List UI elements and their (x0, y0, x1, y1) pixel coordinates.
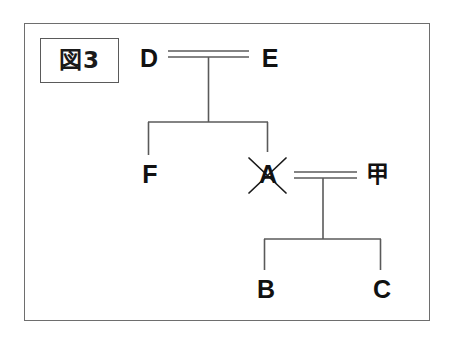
person-label-c[interactable]: C (367, 277, 397, 302)
diagram-canvas: 図3 (0, 0, 453, 350)
figure-caption-label: 図3 (59, 49, 100, 72)
person-label-d[interactable]: D (134, 46, 164, 71)
person-label-a[interactable]: A (253, 162, 283, 187)
figure-caption-box: 図3 (40, 38, 119, 83)
person-label-e[interactable]: E (255, 46, 285, 71)
person-label-f[interactable]: F (135, 162, 165, 187)
person-label-b[interactable]: B (251, 277, 281, 302)
person-label-kou[interactable]: 甲 (360, 163, 394, 186)
